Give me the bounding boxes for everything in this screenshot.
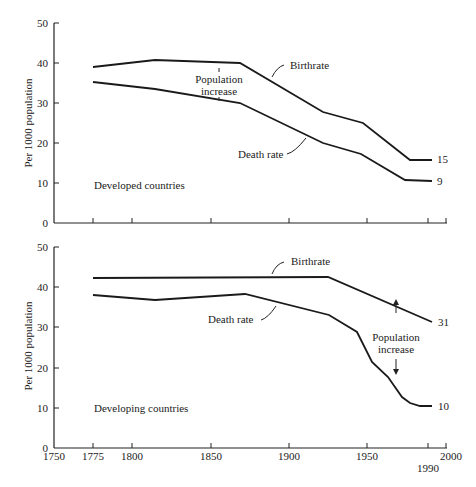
x-tick: 1950 (356, 450, 379, 462)
pop-increase-label-1: Population (195, 73, 243, 85)
birthrate-pointer-icon (272, 65, 284, 77)
birthrate-pointer-icon (272, 262, 284, 274)
y-tick: 30 (37, 97, 49, 109)
y-tick: 30 (37, 321, 49, 333)
deathrate-label: Death rate (208, 313, 254, 325)
arrow-down-head-icon (393, 369, 399, 375)
y-tick: 20 (37, 137, 49, 149)
top-panel: 50 40 30 20 10 0 Per 1000 population Bir… (22, 17, 449, 229)
birthrate-label: Birthrate (290, 59, 329, 71)
y-axis-label: Per 1000 population (22, 301, 34, 391)
pop-increase-label-2: increase (201, 85, 237, 97)
x-tick: 1800 (121, 450, 144, 462)
birthrate-label: Birthrate (291, 255, 330, 267)
top-deathrate-line (93, 82, 432, 181)
bottom-panel: 50 40 30 20 10 0 Per 1000 population 175… (22, 241, 463, 474)
y-tick: 10 (37, 402, 49, 414)
bottom-end-birth: 31 (438, 316, 449, 328)
y-tick: 40 (37, 281, 49, 293)
deathrate-label: Death rate (238, 148, 284, 160)
bottom-panel-title: Developing countries (94, 402, 188, 414)
pop-increase-label-1: Population (372, 331, 420, 343)
x-tick-1990: 1990 (417, 462, 440, 474)
deathrate-pointer-icon (287, 138, 306, 154)
top-panel-title: Developed countries (94, 179, 185, 191)
y-tick: 0 (43, 217, 49, 229)
y-tick: 40 (37, 57, 49, 69)
deathrate-pointer-icon (261, 306, 276, 320)
demographic-transition-chart: 50 40 30 20 10 0 Per 1000 population Bir… (0, 0, 476, 487)
y-tick: 10 (37, 177, 49, 189)
y-tick: 50 (37, 241, 49, 253)
top-birthrate-line (93, 60, 432, 160)
arrow-up-head-icon (393, 299, 399, 305)
y-axis-label: Per 1000 population (22, 78, 34, 168)
x-tick: 1900 (278, 450, 301, 462)
top-end-birth: 15 (437, 153, 449, 165)
x-tick: 2000 (440, 450, 463, 462)
y-tick: 20 (37, 362, 49, 374)
x-tick: 1850 (200, 450, 223, 462)
y-tick: 50 (37, 17, 49, 29)
pop-increase-label-2: increase (378, 343, 414, 355)
bottom-end-death: 10 (438, 400, 450, 412)
x-tick: 1775 (82, 450, 105, 462)
top-end-death: 9 (437, 175, 443, 187)
x-tick: 1750 (43, 450, 66, 462)
